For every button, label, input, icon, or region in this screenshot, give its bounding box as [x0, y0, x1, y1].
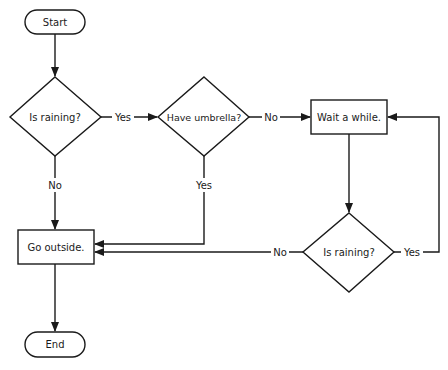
edge-umbrella-yes: Yes — [95, 156, 215, 244]
decision-label: Have umbrella? — [167, 112, 241, 123]
decision-have-umbrella: Have umbrella? — [158, 77, 249, 156]
process-label: Wait a while. — [317, 112, 381, 123]
end-node: End — [25, 332, 85, 357]
decision-label: Is raining? — [323, 247, 374, 258]
edge-label-no: No — [273, 247, 287, 258]
decision-label: Is raining? — [29, 112, 80, 123]
decision-is-raining-2: Is raining? — [303, 213, 394, 292]
edge-label-yes: Yes — [114, 112, 131, 123]
decision-is-raining-1: Is raining? — [10, 77, 101, 156]
process-label: Go outside. — [27, 242, 84, 253]
edge-umbrella-no: No — [249, 110, 310, 124]
edge-label-no: No — [264, 112, 278, 123]
end-label: End — [45, 339, 64, 350]
start-label: Start — [43, 17, 68, 28]
process-go-outside: Go outside. — [18, 230, 94, 264]
edge-label-yes: Yes — [195, 180, 212, 191]
process-wait-a-while: Wait a while. — [311, 100, 387, 134]
edge-label-yes: Yes — [403, 247, 420, 258]
edge-raining2-no: No — [95, 245, 303, 259]
edge-label-no: No — [48, 180, 62, 191]
start-node: Start — [25, 10, 85, 34]
flowchart-canvas: Yes No No Yes No Yes Start Is rainin — [0, 0, 448, 370]
edge-raining2-yes: Yes — [388, 117, 439, 259]
edge-decision1-yes: Yes — [101, 110, 157, 124]
edge-decision1-no: No — [46, 156, 64, 229]
